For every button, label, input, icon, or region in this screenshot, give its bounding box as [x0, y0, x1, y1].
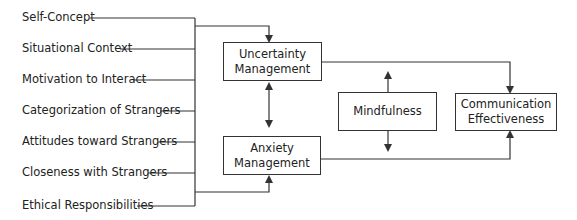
- anxiety-line2: Management: [234, 156, 310, 171]
- communication-line1: Communication: [461, 97, 552, 112]
- anxiety-line1: Anxiety: [234, 141, 310, 156]
- input-label-motivation: Motivation to Interact: [22, 72, 146, 86]
- input-label-closeness: Closeness with Strangers: [22, 165, 167, 179]
- input-label-ethical: Ethical Responsibilities: [22, 198, 154, 212]
- mindfulness-box: Mindfulness: [338, 92, 437, 131]
- uncertainty-line1: Uncertainty: [235, 47, 311, 62]
- uncertainty-management-box: Uncertainty Management: [223, 42, 322, 81]
- uncertainty-line2: Management: [235, 62, 311, 77]
- communication-line2: Effectiveness: [461, 112, 552, 127]
- anxiety-management-box: Anxiety Management: [223, 136, 321, 175]
- input-label-situational-context: Situational Context: [22, 41, 132, 55]
- input-label-self-concept: Self-Concept: [22, 10, 95, 24]
- input-label-categorization: Categorization of Strangers: [22, 103, 180, 117]
- mindfulness-label: Mindfulness: [353, 104, 422, 119]
- input-label-attitudes: Attitudes toward Strangers: [22, 134, 177, 148]
- communication-effectiveness-box: Communication Effectiveness: [455, 93, 557, 131]
